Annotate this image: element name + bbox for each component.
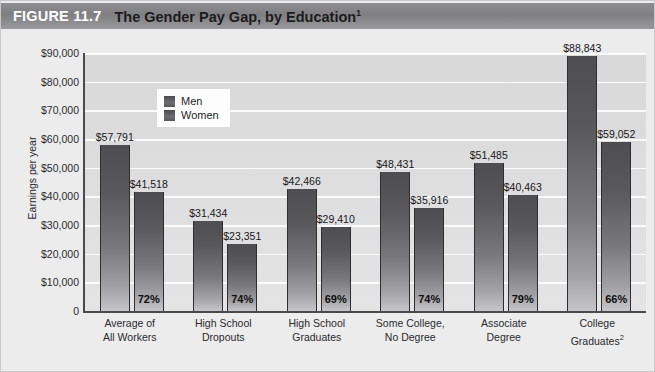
bar-value-label-men: $48,431	[376, 158, 414, 170]
y-axis-tick-label: $20,000	[23, 248, 79, 260]
y-axis-tick-label: $70,000	[23, 104, 79, 116]
y-axis-tick-label: $40,000	[23, 190, 79, 202]
x-axis-category-label: High SchoolDropouts	[195, 317, 252, 344]
x-axis-label-line: Associate	[481, 317, 527, 331]
x-axis-category-label: Some College,No Degree	[376, 317, 445, 344]
y-axis-tick-label: $80,000	[23, 76, 79, 88]
gridline	[85, 139, 646, 141]
bar-men	[380, 172, 410, 311]
bar-value-label-women: $59,052	[597, 128, 635, 140]
legend-item-women: Women	[164, 108, 219, 122]
y-axis-tick-label: $10,000	[23, 276, 79, 288]
x-axis-label-line: High School	[288, 317, 345, 331]
legend-swatch-men-icon	[164, 96, 175, 107]
ratio-percent-label: 72%	[138, 293, 160, 305]
x-axis-label-line: All Workers	[103, 331, 156, 345]
x-axis-category-label: CollegeGraduates2	[571, 317, 624, 348]
y-axis-tick-labels: 0$10,000$20,000$30,000$40,000$50,000$60,…	[23, 29, 79, 372]
chart-legend: Men Women	[157, 89, 230, 127]
x-axis-label-line: No Degree	[376, 331, 445, 345]
bar-value-label-women: $29,410	[317, 213, 355, 225]
ratio-percent-label: 74%	[231, 293, 253, 305]
bar-men	[193, 221, 223, 311]
x-axis-label-line: High School	[195, 317, 252, 331]
bar-value-label-men: $57,791	[96, 131, 134, 143]
x-axis-label-line: Degree	[481, 331, 527, 345]
x-axis-label-line: Graduates2	[571, 331, 624, 348]
gridline	[85, 82, 646, 84]
figure-title: The Gender Pay Gap, by Education1	[114, 8, 360, 25]
bar-men	[100, 145, 130, 311]
y-axis-tick-label: $60,000	[23, 133, 79, 145]
ratio-percent-label: 69%	[325, 293, 347, 305]
bar-value-label-women: $41,518	[130, 178, 168, 190]
figure-title-text: The Gender Pay Gap, by Education	[114, 8, 356, 24]
bar-value-label-men: $42,466	[283, 175, 321, 187]
y-axis-tick-label: $50,000	[23, 162, 79, 174]
ratio-percent-label: 66%	[605, 293, 627, 305]
bar-value-label-women: $35,916	[410, 194, 448, 206]
gridline	[85, 53, 646, 55]
figure-container: FIGURE 11.7 The Gender Pay Gap, by Educa…	[0, 0, 655, 372]
legend-item-men: Men	[164, 94, 219, 108]
y-axis-tick-label: 0	[23, 305, 79, 317]
bar-men	[287, 189, 317, 311]
x-axis-label-line: Some College,	[376, 317, 445, 331]
gridline	[85, 196, 646, 198]
y-axis-tick-label: $30,000	[23, 219, 79, 231]
y-axis-tick-label: $90,000	[23, 47, 79, 59]
x-axis-label-line: Dropouts	[195, 331, 252, 345]
ratio-percent-label: 79%	[512, 293, 534, 305]
ratio-percent-label: 74%	[418, 293, 440, 305]
figure-title-footnote: 1	[356, 8, 361, 18]
gridline	[85, 282, 646, 284]
x-axis-category-label: High SchoolGraduates	[288, 317, 345, 344]
bar-value-label-men: $51,485	[470, 149, 508, 161]
legend-swatch-women-icon	[164, 110, 175, 121]
figure-title-band: FIGURE 11.7 The Gender Pay Gap, by Educa…	[1, 3, 655, 29]
x-axis-category-labels: Average ofAll WorkersHigh SchoolDropouts…	[83, 317, 644, 359]
x-axis-label-line: Average of	[103, 317, 156, 331]
x-axis-category-label: AssociateDegree	[481, 317, 527, 344]
bar-value-label-women: $40,463	[504, 181, 542, 193]
x-axis-label-line: Graduates	[288, 331, 345, 345]
bar-men	[567, 56, 597, 311]
bar-value-label-men: $31,434	[189, 207, 227, 219]
x-axis-category-label: Average ofAll Workers	[103, 317, 156, 344]
legend-label-men: Men	[181, 95, 202, 107]
bar-value-label-women: $23,351	[223, 230, 261, 242]
chart-area: Earnings per year 0$10,000$20,000$30,000…	[1, 29, 655, 372]
bar-value-label-men: $88,843	[563, 42, 601, 54]
gridline	[85, 254, 646, 256]
x-axis-label-line: College	[571, 317, 624, 331]
gridline	[85, 225, 646, 227]
category-footnote: 2	[620, 333, 624, 342]
figure-number: FIGURE 11.7	[13, 8, 101, 24]
gridline	[85, 168, 646, 170]
legend-label-women: Women	[181, 109, 219, 121]
bar-women	[601, 142, 631, 311]
bar-men	[474, 163, 504, 311]
